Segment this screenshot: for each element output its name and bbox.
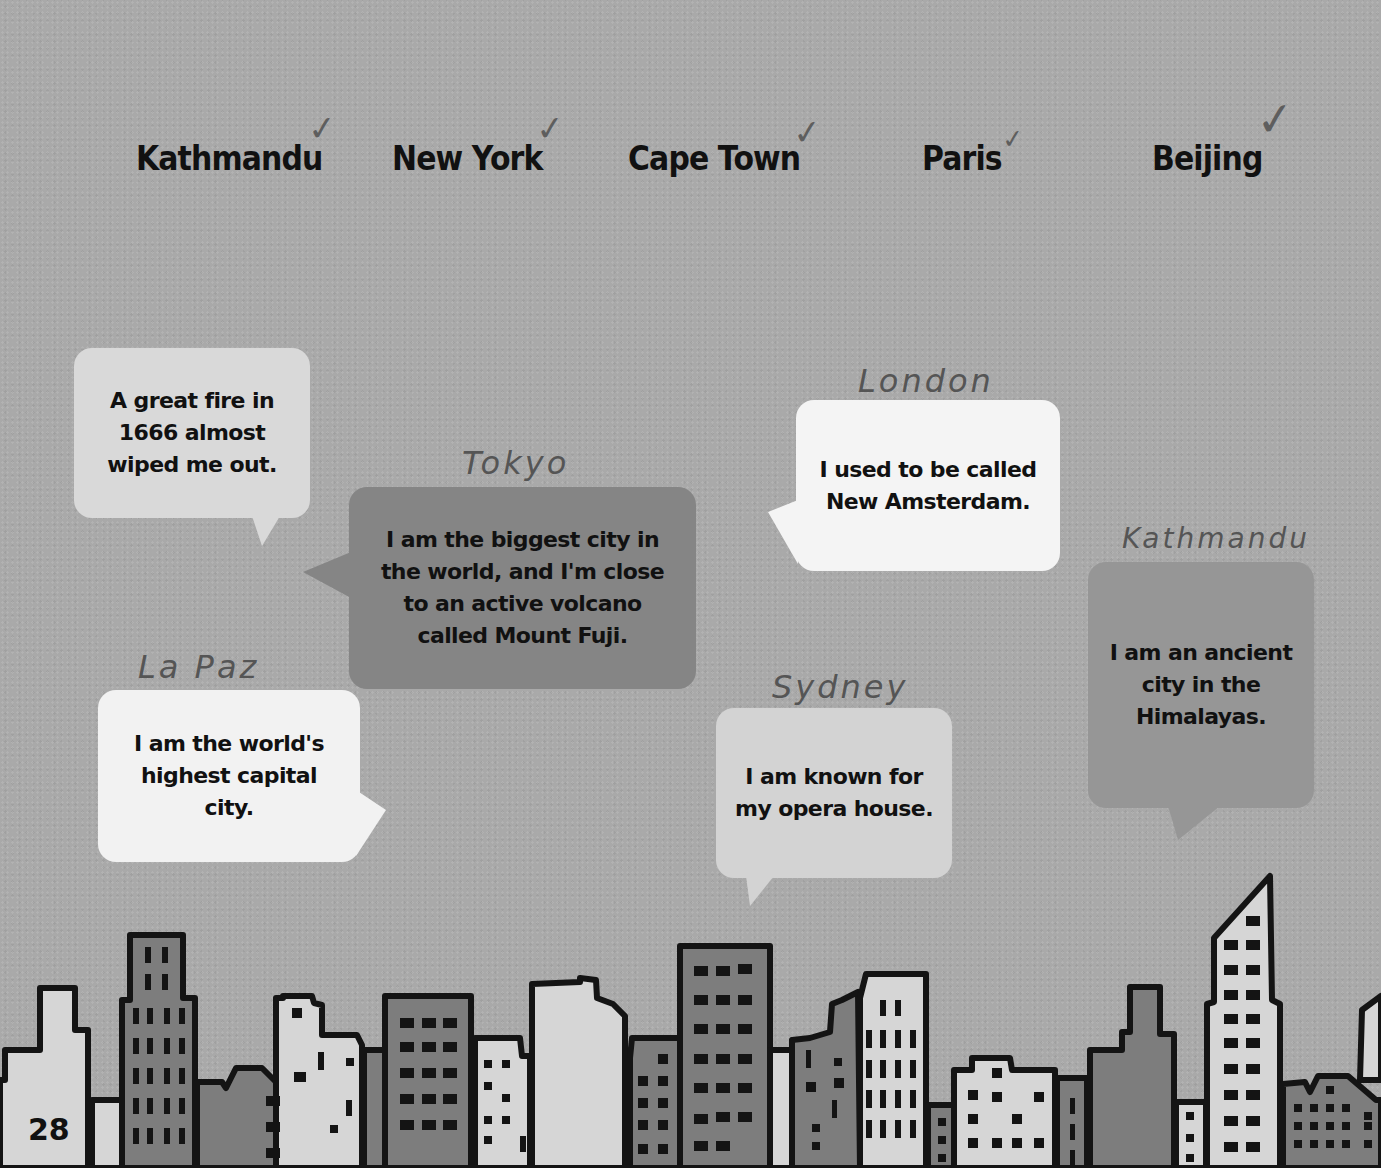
handwritten-answer[interactable]: Kathmandu [1122,522,1310,555]
check-mark-icon: ✓ [534,107,567,150]
bubble-tail [252,516,280,546]
bubble-clue-text: A great fire in 1666 almost wiped me out… [107,385,276,481]
check-mark-icon: ✓ [791,111,824,154]
page-number: 28 [28,1112,70,1147]
check-mark-icon: ✓ [306,107,339,150]
bubble-clue-text: I am the biggest city in the world, and … [381,524,664,652]
handwritten-answer[interactable]: Tokyo [462,444,569,482]
handwritten-answer[interactable]: London [858,362,994,400]
check-mark-icon: ✓ [1000,123,1025,155]
bubble-tail [768,500,798,564]
city-name-beijing: Beijing [1152,138,1262,178]
city-skyline-illustration [0,868,1381,1168]
bubble-body: I used to be called New Amsterdam. [796,400,1060,571]
bubble-clue-text: I used to be called New Amsterdam. [820,454,1037,518]
bubble-clue-text: I am the world's highest capital city. [116,728,342,824]
handwritten-answer[interactable]: La Paz [138,648,259,686]
bubble-tail [1168,806,1220,840]
bubble-tail [356,790,386,856]
handwritten-answer[interactable]: Sydney [772,668,908,706]
check-mark-icon: ✓ [1253,90,1297,148]
city-name-new-york: New York [392,138,542,178]
bubble-clue-text: I am an ancient city in the Himalayas. [1110,637,1293,733]
bubble-clue-text: I am known for my opera house. [735,761,933,825]
city-name-cape-town: Cape Town [628,138,800,178]
bubble-body: I am an ancient city in the Himalayas. [1088,562,1314,808]
bubble-tail [303,552,351,598]
bubble-body: I am known for my opera house. [716,708,952,878]
bubble-body: I am the world's highest capital city. [98,690,360,862]
city-name-kathmandu: Kathmandu [136,138,322,178]
bubble-body: I am the biggest city in the world, and … [349,487,696,689]
bubble-body: A great fire in 1666 almost wiped me out… [74,348,310,518]
city-name-paris: Paris [922,138,1002,178]
